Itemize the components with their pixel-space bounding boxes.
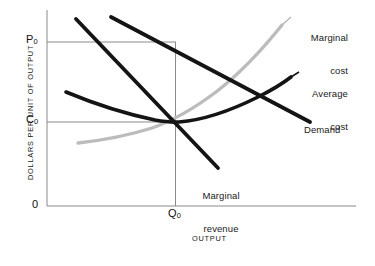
q0-tick-label: Q0 bbox=[168, 208, 181, 221]
marginal-revenue-label: Marginal revenue bbox=[186, 168, 256, 256]
c0-tick-label: C0 bbox=[26, 114, 38, 127]
c0-tick-main: C bbox=[26, 113, 34, 125]
marginal-revenue-curve bbox=[76, 19, 218, 168]
demand-label: Demand bbox=[304, 124, 341, 135]
c0-tick-sub: 0 bbox=[34, 117, 38, 126]
q0-tick-sub: 0 bbox=[177, 211, 181, 220]
economics-chart: DOLLARS PER UNIT OF OUTPUT OUTPUT 0 P0 C… bbox=[0, 0, 375, 266]
marginal-revenue-label-line1: Marginal bbox=[186, 190, 256, 201]
marginal-cost-label-line1: Marginal bbox=[248, 32, 348, 43]
p0-tick-sub: 0 bbox=[33, 37, 37, 46]
average-cost-label-line1: Average bbox=[250, 88, 348, 99]
p0-tick-label: P0 bbox=[26, 34, 38, 47]
marginal-revenue-label-line2: revenue bbox=[186, 223, 256, 234]
origin-tick-label: 0 bbox=[32, 199, 38, 210]
q0-tick-main: Q bbox=[168, 207, 177, 219]
average-cost-label: Average cost bbox=[250, 66, 348, 154]
